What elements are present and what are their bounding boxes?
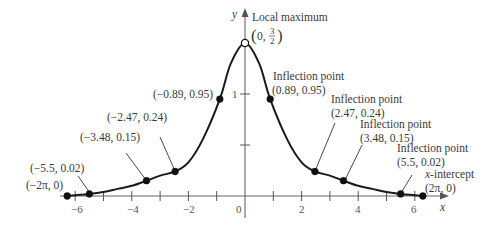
x-tick-label: 0 (236, 203, 242, 215)
coord-m55: (−5.5, 0.02) (30, 162, 85, 175)
local-max-coord: ( 0, 3 2 ) (251, 26, 283, 46)
x-intercept-coord: (2π, 0) (425, 182, 456, 195)
svg-text:3: 3 (270, 26, 275, 36)
x-intercept-label: x-intercept (424, 168, 475, 181)
x-tick-label: −6 (71, 203, 83, 215)
local-max-point (241, 39, 248, 46)
inflection-coord-1: (0.89, 0.95) (272, 84, 326, 97)
coord-m089: (−0.89, 0.95) (153, 88, 213, 101)
data-point (216, 96, 223, 103)
svg-text:2: 2 (270, 36, 275, 46)
x-tick-label: 4 (355, 203, 361, 215)
local-max-label: Local maximum (252, 11, 328, 23)
x-tick-label: −4 (127, 203, 139, 215)
svg-text:0,: 0, (257, 30, 266, 43)
x-tick-label: 2 (299, 203, 305, 215)
data-point (312, 168, 319, 175)
function-graph: −6 −4 −2 0 2 4 6 1 x y Local maximum ( 0… (0, 0, 495, 231)
inflection-label-3: Inflection point (360, 118, 432, 131)
data-point (340, 177, 347, 184)
x-tick-label: 6 (411, 203, 417, 215)
y-axis-label: y (231, 8, 238, 21)
data-point (64, 193, 71, 200)
data-point (397, 191, 404, 198)
x-axis-label: x (439, 201, 446, 213)
inflection-label-2: Inflection point (331, 93, 403, 106)
inflection-label-1: Inflection point (273, 70, 345, 83)
data-point (143, 177, 150, 184)
coord-m2pi: (−2π, 0) (26, 179, 63, 192)
data-point (267, 96, 274, 103)
data-point (86, 191, 93, 198)
svg-text:): ) (277, 26, 283, 45)
y-tick-label: 1 (232, 88, 238, 100)
data-point (172, 168, 179, 175)
inflection-label-4: Inflection point (397, 142, 469, 155)
coord-m348: (−3.48, 0.15) (80, 131, 140, 144)
y-axis-arrow-icon (242, 8, 249, 17)
x-tick-label: −2 (183, 203, 195, 215)
coord-m247: (−2.47, 0.24) (107, 111, 167, 124)
